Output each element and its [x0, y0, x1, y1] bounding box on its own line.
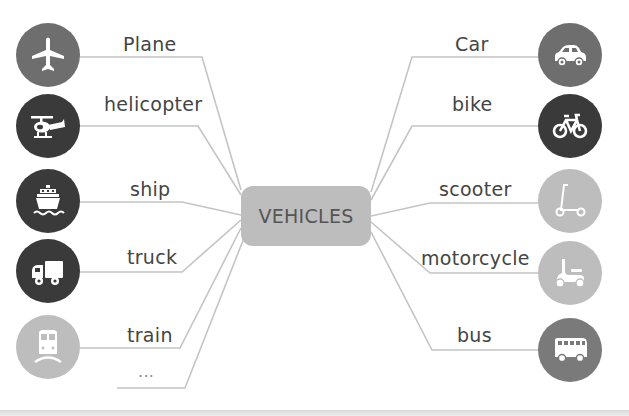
car-icon — [550, 35, 590, 75]
bus-icon — [550, 330, 590, 370]
label-ship: ship — [130, 180, 170, 199]
label-motorcycle: motorcycle — [421, 249, 530, 268]
bicycle-icon — [550, 106, 590, 146]
train-icon — [28, 327, 68, 367]
center-label: VEHICLES — [258, 205, 353, 227]
label-bike: bike — [452, 95, 493, 114]
ship-circle — [16, 169, 80, 233]
motorcycle-circle — [538, 241, 602, 305]
plane-circle — [16, 23, 80, 87]
scooter-circle — [538, 169, 602, 233]
label-car: Car — [455, 35, 489, 54]
bottom-edge — [0, 410, 629, 416]
vehicles-mind-map: VEHICLES — [0, 0, 629, 416]
label-more: ... — [138, 364, 154, 380]
truck-circle — [16, 239, 80, 303]
bus-circle — [538, 318, 602, 382]
center-node: VEHICLES — [241, 186, 371, 246]
label-helicopter: helicopter — [104, 95, 202, 114]
helicopter-circle — [16, 94, 80, 158]
label-scooter: scooter — [439, 180, 512, 199]
truck-icon — [28, 251, 68, 291]
motor-scooter-icon — [550, 253, 590, 293]
train-circle — [16, 315, 80, 379]
plane-icon — [28, 35, 68, 75]
car-circle — [538, 23, 602, 87]
ship-icon — [28, 181, 68, 221]
helicopter-icon — [28, 106, 68, 146]
label-truck: truck — [127, 248, 177, 267]
label-train: train — [127, 326, 173, 345]
label-plane: Plane — [123, 35, 177, 54]
bike-circle — [538, 94, 602, 158]
label-bus: bus — [457, 326, 492, 345]
scooter-icon — [550, 181, 590, 221]
